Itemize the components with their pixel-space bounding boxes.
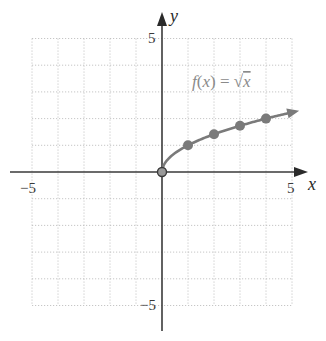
y-axis-arrow-icon [157,12,167,26]
data-point [209,129,219,139]
sqrt-function-graph: x y −5 5 5 −5 f(x) = √x [0,0,326,341]
x-tick-min: −5 [20,180,36,196]
data-point [183,140,193,150]
x-tick-max: 5 [287,180,295,196]
function-curve [158,108,300,176]
function-label: f(x) = √x [192,72,251,91]
y-axis-label: y [168,6,178,26]
y-tick-min: −5 [140,297,156,313]
x-axis-arrow-icon [294,167,308,177]
origin-point [158,168,167,177]
x-axis-label: x [307,174,316,194]
curve-arrow-icon [286,108,299,118]
sqrt-curve [162,113,289,172]
data-point [261,114,271,124]
data-point [235,121,245,131]
y-tick-max: 5 [148,30,156,46]
